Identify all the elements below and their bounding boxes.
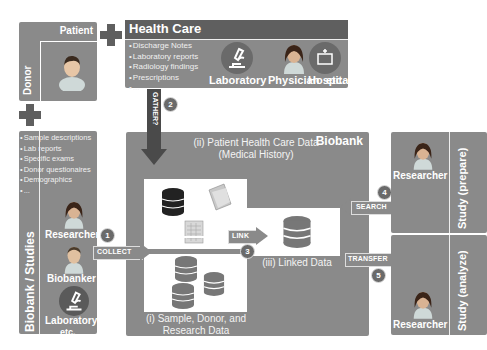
health-care-bullets: Discharge Notes Laboratory reports Radio… [129,41,198,94]
biobanker-label: Biobanker [47,273,96,284]
person-avatar-icon [57,53,87,91]
plus-icon [19,104,41,126]
researcher-avatar-icon [61,199,87,229]
laboratory-etc: etc. [60,327,76,337]
gather-label: GATHER? [152,92,159,125]
step-4-badge: 4 [377,185,392,200]
link-arrow[interactable]: LINK [228,227,278,245]
patient-title: Patient [60,25,93,36]
researcher-avatar-icon [410,289,436,319]
biobanker-avatar-icon [61,244,87,274]
step-5-badge: 5 [371,268,386,283]
study-analyze-label: Study (analyze) [456,250,468,331]
researcher-label: Researcher [393,319,447,330]
database-icon [161,188,185,216]
sample-data-caption: (i) Sample, Donor, and Research Data [140,313,252,337]
medical-folder-icon [206,182,234,212]
biobank-studies-bullets: Sample descriptions Lab reports Specific… [20,133,91,196]
database-icon [171,283,195,309]
step-1-badge: 1 [100,228,115,243]
database-icon [174,256,198,282]
health-care-title: Health Care [129,21,201,36]
patient-data-caption: (ii) Patient Health Care Data (Medical H… [186,137,326,161]
step-3-badge: 3 [240,244,255,259]
collect-label: COLLECT [97,248,131,255]
hospital-icon [309,42,341,74]
transfer-label: TRANSFER [348,255,388,262]
study-prepare-panel: Researcher Study (prepare) [391,132,487,233]
sample-data-box [144,254,247,312]
step-2-badge: 2 [163,97,178,112]
linked-data-caption: (iii) Linked Data [252,257,342,269]
study-analyze-panel: Researcher Study (analyze) [391,235,487,335]
gather-arrow[interactable]: GATHER? [147,89,161,164]
biobank-studies-panel: Sample descriptions Lab reports Specific… [19,131,97,334]
health-care-etc: etc. [326,74,345,86]
microscope-icon [221,42,253,74]
search-label: SEARCH [356,203,387,210]
search-arrow[interactable]: SEARCH [340,198,396,216]
physician-avatar-icon [280,42,308,74]
study-prepare-label: Study (prepare) [456,148,468,229]
donor-label: Donor [22,66,33,95]
researcher-avatar-icon [410,140,436,170]
researcher-label: Researcher [393,170,447,181]
biobank-studies-label: Biobank / Studies [23,231,37,332]
plus-icon [100,24,122,46]
researcher-label: Researcher [45,229,99,240]
laboratory-label: Laboratory [45,315,97,326]
patient-panel: Patient Donor [19,22,97,101]
health-care-panel: Health Care Discharge Notes Laboratory r… [125,20,348,88]
medical-record-icon [184,220,204,244]
laboratory-label: Laboratory [209,74,266,86]
collect-arrow[interactable]: COLLECT [93,243,153,261]
microscope-icon [59,286,89,316]
database-icon [203,272,225,296]
link-label: LINK [232,232,249,239]
database-icon [282,216,312,248]
